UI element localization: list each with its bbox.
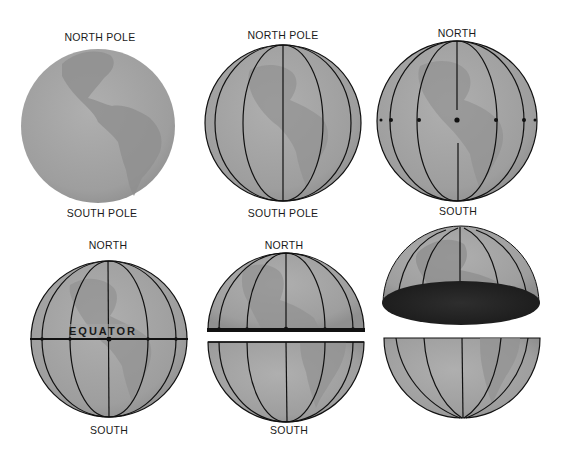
northern-hemisphere-dome [382, 226, 540, 325]
panel-globe-plain: NORTH POLE SOUTH POLE [21, 31, 175, 219]
northern-hemisphere [207, 253, 365, 332]
south-label: SOUTH [270, 424, 308, 436]
north-pole-label: NORTH POLE [247, 29, 318, 41]
south-pole-label: SOUTH POLE [248, 207, 319, 219]
southern-hemisphere [208, 342, 364, 422]
cut-face [382, 281, 540, 325]
north-label: NORTH [89, 239, 128, 251]
globe-diagram: NORTH POLE SOUTH POLE NORTH POLE SOUTH P… [0, 0, 568, 458]
panel-globe-meridians: NORTH POLE SOUTH POLE [205, 29, 361, 219]
south-label: SOUTH [439, 205, 477, 217]
equator-label: EQUATOR [69, 325, 137, 337]
north-label: NORTH [265, 239, 304, 251]
panel-globe-equator: NORTH EQUATOR SOUTH [30, 239, 188, 436]
south-pole-label: SOUTH POLE [67, 207, 138, 219]
north-pole-label: NORTH POLE [64, 31, 135, 43]
southern-hemisphere-bowl [384, 338, 540, 418]
panel-globe-equator-points: NORTH SOUTH [377, 27, 537, 217]
north-label: NORTH [438, 27, 477, 39]
south-label: SOUTH [90, 424, 128, 436]
panel-globe-hemispheres-separated [382, 226, 540, 418]
panel-globe-split: NORTH [207, 239, 365, 436]
